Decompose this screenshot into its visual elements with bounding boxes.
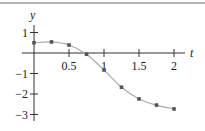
x-tick-label: 0.5 bbox=[62, 59, 77, 73]
y-tick-label: −2 bbox=[15, 87, 28, 101]
y-axis-label: y bbox=[29, 8, 36, 22]
ticks: 0.511.521−1−2−3 bbox=[15, 26, 177, 122]
x-axis-label: t bbox=[190, 46, 194, 60]
data-point-marker bbox=[32, 41, 36, 45]
x-tick-label: 1.5 bbox=[132, 59, 147, 73]
y-tick-label: −1 bbox=[15, 67, 28, 81]
data-point-marker bbox=[67, 43, 71, 47]
data-point-marker bbox=[50, 40, 54, 44]
data-point-marker bbox=[102, 68, 106, 72]
data-point-marker bbox=[155, 103, 159, 107]
data-point-marker bbox=[85, 52, 89, 56]
data-point-marker bbox=[120, 85, 124, 89]
x-tick-label: 2 bbox=[171, 59, 177, 73]
y-tick-label: 1 bbox=[22, 26, 28, 40]
data-point-marker bbox=[172, 107, 176, 111]
y-tick-label: −3 bbox=[15, 108, 28, 122]
data-point-marker bbox=[137, 97, 141, 101]
line-chart: 0.511.521−1−2−3 t y bbox=[0, 0, 205, 131]
